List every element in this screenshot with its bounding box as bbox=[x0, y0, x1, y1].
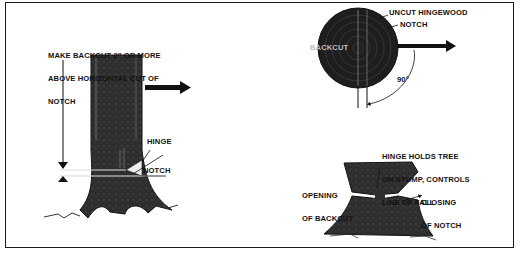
angle-label: 90° bbox=[397, 76, 409, 84]
top-view-stump bbox=[318, 8, 398, 108]
closing-of-notch-label: CLOSING OF NOTCH bbox=[421, 183, 461, 238]
closing-line-2: OF NOTCH bbox=[421, 222, 461, 230]
opening-line-2: OF BACKCUT bbox=[302, 215, 353, 223]
closing-line-1: CLOSING bbox=[421, 199, 461, 207]
backcut-label: BACKCUT bbox=[310, 44, 348, 52]
opening-of-backcut-label: OPENING OF BACKCUT bbox=[302, 176, 353, 231]
notch-label: NOTCH bbox=[143, 167, 171, 175]
top-fall-arrow-icon bbox=[397, 40, 456, 52]
uncut-hingewood-label: UNCUT HINGEWOOD bbox=[389, 9, 468, 17]
backcut-instruction-line-1: MAKE BACKCUT 2″ OR MORE bbox=[48, 52, 161, 60]
opening-line-1: OPENING bbox=[302, 192, 353, 200]
backcut-instruction-line-2: ABOVE HORIZONTAL CUT OF bbox=[48, 75, 161, 83]
backcut-instruction-line-3: NOTCH bbox=[48, 98, 161, 106]
hinge-holds-line-1: HINGE HOLDS TREE bbox=[382, 153, 470, 161]
backcut-instruction-label: MAKE BACKCUT 2″ OR MORE ABOVE HORIZONTAL… bbox=[48, 36, 161, 114]
hinge-label: HINGE bbox=[147, 138, 172, 146]
top-notch-label: NOTCH bbox=[400, 21, 428, 29]
